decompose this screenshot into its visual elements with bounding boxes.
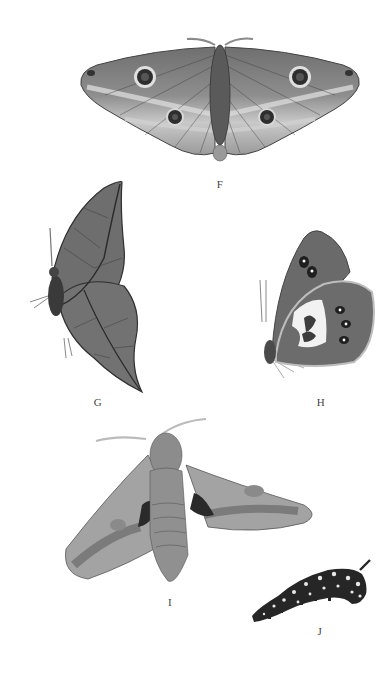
specimen-g-leaf-butterfly xyxy=(24,178,144,394)
label-f: F xyxy=(210,178,230,190)
moth-f-illustration xyxy=(75,35,365,167)
label-i: I xyxy=(160,596,180,608)
specimen-j-caterpillar xyxy=(248,556,374,626)
illustration-plate: F G xyxy=(0,0,391,682)
caterpillar-j-illustration xyxy=(248,556,374,626)
butterfly-g-illustration xyxy=(24,178,144,394)
butterfly-h-illustration xyxy=(254,222,376,384)
specimen-f-moth xyxy=(75,35,365,167)
label-g: G xyxy=(88,396,108,408)
label-h: H xyxy=(311,396,331,408)
label-j: J xyxy=(310,625,330,637)
specimen-h-butterfly xyxy=(254,222,376,384)
